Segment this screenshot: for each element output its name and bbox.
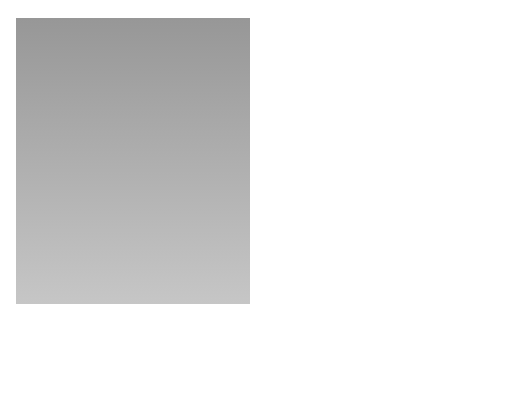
xray-diffraction-diagram [0,0,530,408]
